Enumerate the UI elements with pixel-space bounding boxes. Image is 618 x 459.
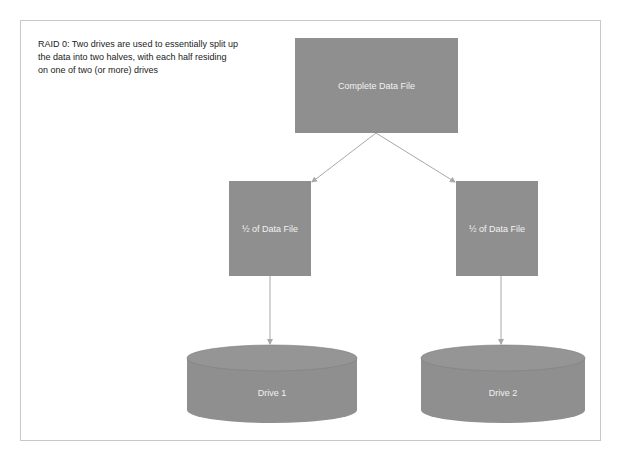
half-data-file-left-label: ½ of Data File (242, 224, 298, 234)
drive-1-label: Drive 1 (232, 388, 312, 398)
arrow-complete-to-half-right (376, 133, 455, 182)
drive-2-cylinder-icon (421, 345, 585, 423)
half-data-file-left-node: ½ of Data File (229, 181, 311, 276)
complete-data-file-node: Complete Data File (295, 38, 458, 133)
half-data-file-right-node: ½ of Data File (456, 181, 538, 276)
drive-1-cylinder-icon (187, 345, 357, 423)
arrow-complete-to-half-left (312, 133, 376, 182)
complete-data-file-label: Complete Data File (338, 81, 415, 91)
drive-2-label: Drive 2 (463, 388, 543, 398)
half-data-file-right-label: ½ of Data File (469, 224, 525, 234)
